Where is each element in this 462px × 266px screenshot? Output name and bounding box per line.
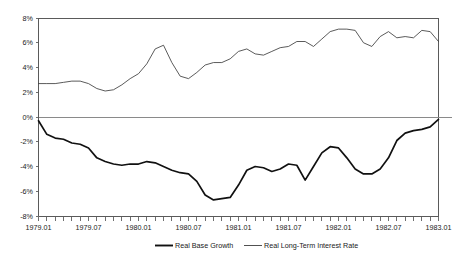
line-chart: 8%6%4%2%0%-2%-4%-6%-8% 1979.011979.07198… [0,0,462,266]
series-line-real-long-term-interest-rate [39,29,439,91]
x-axis-tick-label: 1981.01 [226,223,252,232]
y-axis-tick-labels: 8%6%4%2%0%-2%-4%-6%-8% [20,14,33,221]
x-axis-tick-marks [39,217,439,221]
legend-label-real-long-term-interest-rate: Real Long-Term Interest Rate [264,241,358,250]
y-axis-tick-label: -6% [20,187,33,196]
y-axis-tick-label: 2% [23,88,34,97]
chart-legend: Real Base Growth Real Long-Term Interest… [155,241,358,250]
y-axis-tick-label: 8% [23,14,34,23]
y-axis-tick-label: 0% [23,113,34,122]
x-axis-tick-label: 1983.01 [426,223,452,232]
y-axis-tick-label: -2% [20,137,33,146]
legend-label-real-base-growth: Real Base Growth [175,241,233,250]
y-axis-tick-label: 6% [23,38,34,47]
x-axis-tick-labels: 1979.011979.071980.011980.071981.011981.… [26,223,452,232]
series-line-real-base-growth [39,119,439,199]
x-axis-tick-label: 1982.07 [376,223,402,232]
x-axis-tick-label: 1982.01 [326,223,352,232]
y-axis-tick-label: -4% [20,162,33,171]
x-axis-tick-label: 1980.07 [176,223,202,232]
x-axis-tick-label: 1981.07 [276,223,302,232]
x-axis-tick-label: 1979.01 [26,223,52,232]
x-axis-tick-label: 1979.07 [76,223,102,232]
chart-container: 8%6%4%2%0%-2%-4%-6%-8% 1979.011979.07198… [0,0,462,266]
y-axis-tick-label: -8% [20,212,33,221]
x-axis-tick-label: 1980.01 [126,223,152,232]
y-axis-tick-label: 4% [23,63,34,72]
